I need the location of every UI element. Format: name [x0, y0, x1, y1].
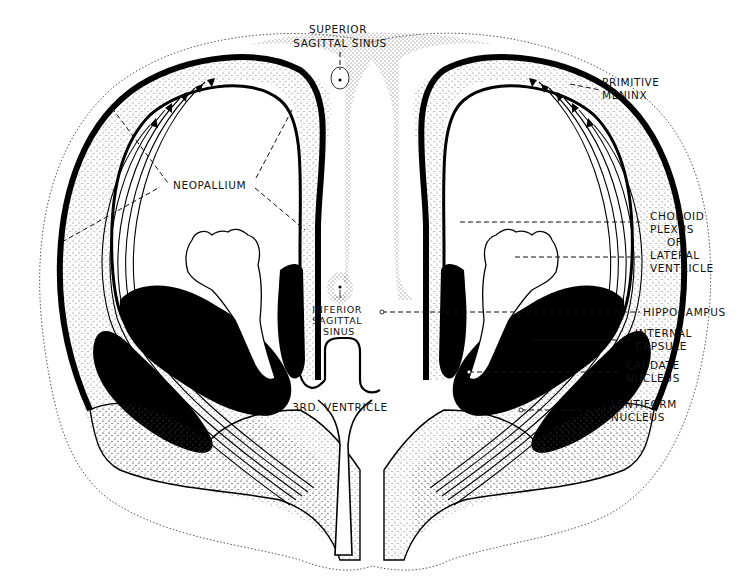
label-primitive-meninx: PRIMITIVE MENINX	[602, 76, 664, 101]
label-third-ventricle: 3RD. VENTRICLE	[292, 401, 387, 413]
right-hemisphere	[384, 55, 684, 560]
label-caudate-nucleus: CAUDATE NUCLEUS	[626, 359, 684, 384]
label-internal-capsule: INTERNAL CAPSULE	[635, 327, 696, 352]
superior-sagittal-sinus	[331, 67, 349, 89]
label-hippocampus: HIPPOCAMPUS	[643, 306, 726, 318]
label-neopallium: NEOPALLIUM	[173, 179, 246, 191]
label-lentiform-nucleus: LENTIFORM NUCLEUS	[611, 398, 681, 423]
brain-section-diagram: SUPERIOR SAGITTAL SINUS PRIMITIVE MENINX…	[0, 0, 746, 583]
